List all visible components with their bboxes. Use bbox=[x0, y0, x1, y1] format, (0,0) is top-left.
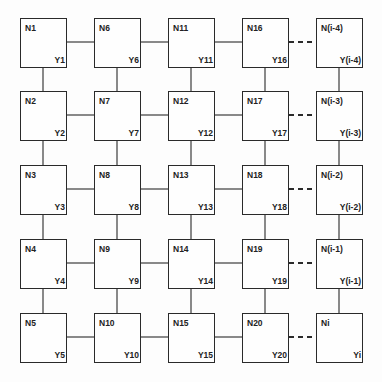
node-box: NiYi bbox=[316, 313, 363, 363]
output-label: Y18 bbox=[272, 202, 287, 212]
node-label: N(i-2) bbox=[321, 170, 343, 180]
node-label: N16 bbox=[247, 23, 263, 33]
node-label: N6 bbox=[99, 23, 110, 33]
node-box: N11Y11 bbox=[168, 18, 215, 68]
output-label: Y11 bbox=[198, 55, 213, 65]
node-label: N20 bbox=[247, 318, 263, 328]
output-label: Yi bbox=[353, 350, 361, 360]
node-box: N(i-4)Y(i-4) bbox=[316, 18, 363, 68]
node-label: N17 bbox=[247, 96, 263, 106]
output-label: Y10 bbox=[124, 350, 139, 360]
output-label: Y13 bbox=[198, 202, 213, 212]
node-box: N10Y10 bbox=[94, 313, 141, 363]
node-label: N9 bbox=[99, 244, 110, 254]
node-box: N15Y15 bbox=[168, 313, 215, 363]
output-label: Y1 bbox=[55, 55, 65, 65]
node-box: N6Y6 bbox=[94, 18, 141, 68]
grid-network-diagram: N1Y1N2Y2N3Y3N4Y4N5Y5N6Y6N7Y7N8Y8N9Y9N10Y… bbox=[0, 0, 382, 382]
node-label: N(i-1) bbox=[321, 244, 343, 254]
node-label: N(i-4) bbox=[321, 23, 343, 33]
node-label: N5 bbox=[25, 318, 36, 328]
node-label: N18 bbox=[247, 170, 263, 180]
node-box: N1Y1 bbox=[20, 18, 67, 68]
node-label: N1 bbox=[25, 23, 36, 33]
node-box: N14Y14 bbox=[168, 239, 215, 289]
node-box: N7Y7 bbox=[94, 91, 141, 141]
node-label: N15 bbox=[173, 318, 189, 328]
output-label: Y(i-2) bbox=[340, 202, 361, 212]
node-box: N4Y4 bbox=[20, 239, 67, 289]
node-box: N5Y5 bbox=[20, 313, 67, 363]
output-label: Y16 bbox=[272, 55, 287, 65]
node-label: N7 bbox=[99, 96, 110, 106]
node-label: N8 bbox=[99, 170, 110, 180]
node-box: N8Y8 bbox=[94, 165, 141, 215]
node-box: N(i-2)Y(i-2) bbox=[316, 165, 363, 215]
output-label: Y7 bbox=[129, 128, 139, 138]
node-box: N(i-3)Y(i-3) bbox=[316, 91, 363, 141]
output-label: Y5 bbox=[55, 350, 65, 360]
node-box: N(i-1)Y(i-1) bbox=[316, 239, 363, 289]
node-label: N11 bbox=[173, 23, 188, 33]
node-label: N(i-3) bbox=[321, 96, 343, 106]
node-box: N13Y13 bbox=[168, 165, 215, 215]
output-label: Y3 bbox=[55, 202, 65, 212]
node-label: N13 bbox=[173, 170, 189, 180]
output-label: Y12 bbox=[198, 128, 213, 138]
output-label: Y4 bbox=[55, 276, 65, 286]
node-box: N20Y20 bbox=[242, 313, 289, 363]
node-label: N2 bbox=[25, 96, 36, 106]
output-label: Y(i-4) bbox=[340, 55, 361, 65]
node-label: N19 bbox=[247, 244, 263, 254]
output-label: Y15 bbox=[198, 350, 213, 360]
node-box: N9Y9 bbox=[94, 239, 141, 289]
output-label: Y17 bbox=[272, 128, 287, 138]
output-label: Y2 bbox=[55, 128, 65, 138]
output-label: Y(i-3) bbox=[340, 128, 361, 138]
node-box: N12Y12 bbox=[168, 91, 215, 141]
output-label: Y8 bbox=[129, 202, 139, 212]
node-box: N18Y18 bbox=[242, 165, 289, 215]
node-box: N2Y2 bbox=[20, 91, 67, 141]
output-label: Y20 bbox=[272, 350, 287, 360]
node-box: N19Y19 bbox=[242, 239, 289, 289]
node-box: N3Y3 bbox=[20, 165, 67, 215]
output-label: Y9 bbox=[129, 276, 139, 286]
node-box: N17Y17 bbox=[242, 91, 289, 141]
output-label: Y(i-1) bbox=[340, 276, 361, 286]
node-label: Ni bbox=[321, 318, 330, 328]
output-label: Y19 bbox=[272, 276, 287, 286]
output-label: Y14 bbox=[198, 276, 213, 286]
node-label: N3 bbox=[25, 170, 36, 180]
node-label: N10 bbox=[99, 318, 115, 328]
node-label: N14 bbox=[173, 244, 189, 254]
node-box: N16Y16 bbox=[242, 18, 289, 68]
node-label: N12 bbox=[173, 96, 189, 106]
output-label: Y6 bbox=[129, 55, 139, 65]
node-label: N4 bbox=[25, 244, 36, 254]
